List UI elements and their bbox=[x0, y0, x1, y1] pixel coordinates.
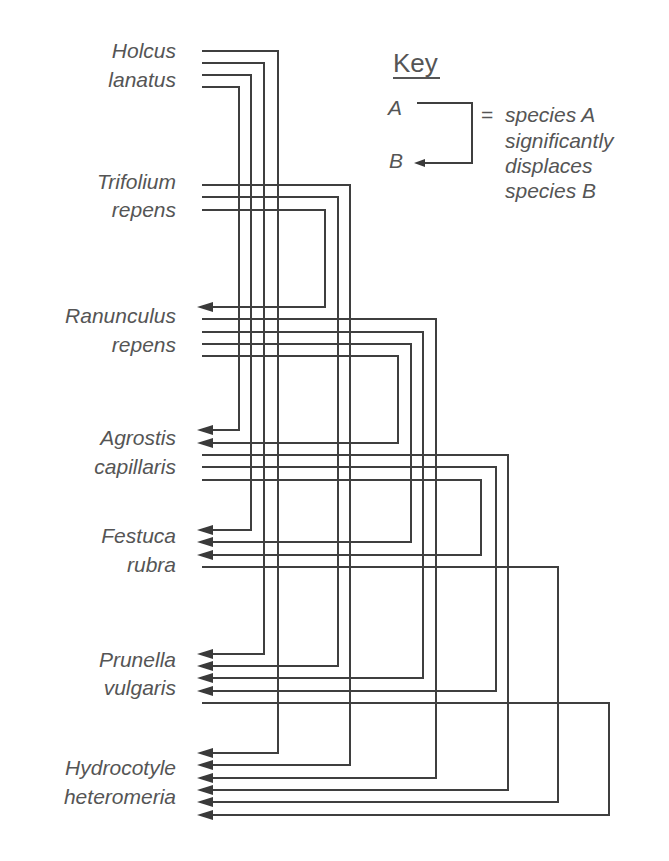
edge-displacement bbox=[197, 356, 398, 448]
species-name-genus: Ranunculus bbox=[65, 304, 176, 327]
key-legend: Key A B = species A significantly displa… bbox=[386, 48, 615, 202]
edge-line bbox=[202, 197, 338, 666]
arrowhead-icon bbox=[197, 810, 213, 820]
species-name-epithet: repens bbox=[112, 198, 177, 221]
edge-displacement bbox=[197, 332, 423, 683]
edge-displacement bbox=[197, 210, 325, 312]
key-description-line-1: species A bbox=[505, 103, 595, 126]
species-name-genus: Festuca bbox=[101, 524, 176, 547]
edge-line bbox=[202, 319, 436, 778]
arrowhead-icon bbox=[197, 525, 213, 535]
species-displacement-diagram: HolcuslanatusTrifoliumrepensRanunculusre… bbox=[0, 0, 669, 861]
species-name-genus: Holcus bbox=[112, 39, 177, 62]
edge-displacement bbox=[197, 185, 350, 770]
species-name-epithet: lanatus bbox=[108, 68, 176, 91]
key-example-edge bbox=[417, 103, 472, 163]
arrowhead-icon bbox=[197, 686, 213, 696]
species-name-genus: Trifolium bbox=[97, 170, 176, 193]
edge-line bbox=[202, 703, 609, 815]
edge-displacement bbox=[197, 63, 264, 659]
arrowhead-icon bbox=[197, 425, 213, 435]
arrowhead-icon bbox=[197, 661, 213, 671]
arrowhead-icon bbox=[197, 550, 213, 560]
key-equals: = bbox=[481, 103, 493, 126]
edge-line bbox=[202, 75, 251, 530]
edge-displacement bbox=[197, 467, 496, 696]
key-label-b: B bbox=[389, 149, 403, 172]
species-name-epithet: repens bbox=[112, 333, 177, 356]
edge-displacement bbox=[197, 455, 508, 795]
key-description-line-2: significantly bbox=[505, 129, 615, 152]
species-name-epithet: capillaris bbox=[94, 455, 176, 478]
species-name-genus: Agrostis bbox=[98, 426, 176, 449]
arrowhead-icon bbox=[197, 785, 213, 795]
edge-displacement bbox=[197, 567, 558, 807]
species-label-festuca: Festucarubra bbox=[101, 524, 176, 576]
species-name-epithet: rubra bbox=[127, 553, 176, 576]
arrowhead-icon bbox=[197, 760, 213, 770]
arrowhead-icon bbox=[197, 438, 213, 448]
arrowhead-icon bbox=[197, 537, 213, 547]
key-title: Key bbox=[393, 48, 438, 78]
edge-displacement bbox=[197, 197, 338, 671]
arrowhead-icon bbox=[197, 649, 213, 659]
edge-displacement bbox=[197, 344, 411, 547]
species-labels: HolcuslanatusTrifoliumrepensRanunculusre… bbox=[64, 39, 177, 808]
key-label-a: A bbox=[386, 96, 402, 119]
species-label-prunella: Prunellavulgaris bbox=[99, 648, 177, 699]
key-arrowhead-icon bbox=[414, 159, 425, 167]
arrowhead-icon bbox=[197, 748, 213, 758]
edge-line bbox=[202, 480, 481, 555]
edge-displacement bbox=[197, 319, 436, 783]
edge-line bbox=[202, 455, 508, 790]
edge-line bbox=[202, 567, 558, 802]
arrowhead-icon bbox=[197, 673, 213, 683]
species-name-genus: Hydrocotyle bbox=[65, 756, 176, 779]
key-description-line-3: displaces bbox=[505, 154, 593, 177]
species-name-epithet: heteromeria bbox=[64, 785, 176, 808]
edge-line bbox=[202, 332, 423, 678]
edge-line bbox=[202, 87, 239, 430]
species-name-epithet: vulgaris bbox=[104, 676, 177, 699]
arrowhead-icon bbox=[197, 302, 213, 312]
edge-line bbox=[202, 63, 264, 654]
species-label-agrostis: Agrostiscapillaris bbox=[94, 426, 176, 478]
arrowhead-icon bbox=[197, 773, 213, 783]
key-description-line-4: species B bbox=[505, 179, 596, 202]
species-label-hydrocotyle: Hydrocotyleheteromeria bbox=[64, 756, 176, 808]
species-label-ranunculus: Ranunculusrepens bbox=[65, 304, 176, 356]
species-name-genus: Prunella bbox=[99, 648, 176, 671]
species-label-trifolium: Trifoliumrepens bbox=[97, 170, 176, 221]
arrowhead-icon bbox=[197, 797, 213, 807]
edge-displacement bbox=[197, 87, 239, 435]
species-label-holcus: Holcuslanatus bbox=[108, 39, 176, 91]
